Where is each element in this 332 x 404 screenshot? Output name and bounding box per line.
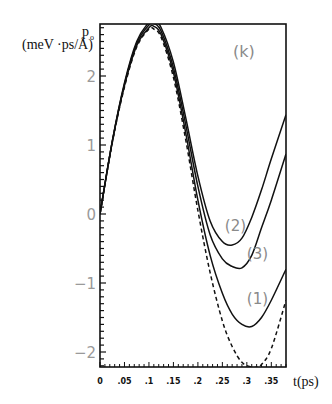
plot-curves: [100, 20, 286, 368]
y-axis-label-unit: (meV ·ps/Å): [22, 37, 93, 53]
x-axis-ticks: 0.05.1.15.2.25.3.35: [97, 362, 286, 386]
curve-3: [100, 23, 286, 269]
x-tick-label: .05: [117, 377, 132, 386]
y-tick-label: 2: [86, 68, 96, 86]
curve-label: (2): [225, 217, 246, 235]
curve-dashed: [100, 27, 286, 367]
curve-label: (1): [247, 290, 268, 308]
x-tick-label: .35: [264, 377, 279, 386]
chart: p o (meV ·ps/Å) 0.05.1.15.2.25.3.35 −2−1…: [0, 0, 332, 404]
y-tick-label: 0: [86, 206, 96, 224]
x-tick-label: .1: [145, 377, 154, 386]
panel-label: (k): [233, 42, 255, 61]
y-axis-ticks: −2−1012: [74, 28, 106, 366]
x-tick-label: .3: [243, 377, 252, 386]
y-tick-label: 1: [86, 137, 96, 155]
y-axis-label: p o (meV ·ps/Å): [22, 24, 94, 53]
y-tick-label: −1: [74, 275, 96, 293]
x-axis-label: t(ps): [293, 374, 319, 390]
curve-2: [100, 20, 286, 245]
curve-label: (3): [247, 245, 268, 263]
x-tick-label: 0: [97, 377, 103, 386]
x-tick-label: .25: [215, 377, 230, 386]
curve-1: [100, 25, 286, 327]
y-tick-label: −2: [74, 344, 96, 362]
x-tick-label: .15: [166, 377, 181, 386]
x-tick-label: .2: [194, 377, 203, 386]
